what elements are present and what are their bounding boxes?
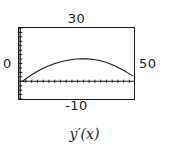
calculator-graph-figure: 30 0 50 -10 y′(x) bbox=[0, 0, 169, 156]
y-axis-min-label: -10 bbox=[0, 99, 153, 113]
y-axis-group bbox=[19, 28, 22, 99]
plot-canvas bbox=[19, 28, 134, 99]
derivative-curve bbox=[23, 59, 133, 82]
figure-caption: y′(x) bbox=[0, 126, 169, 142]
y-axis-max-label: 30 bbox=[0, 12, 153, 26]
x-axis-min-label: 0 bbox=[3, 57, 12, 71]
plot-area bbox=[18, 27, 135, 100]
x-axis-max-label: 50 bbox=[139, 57, 157, 71]
plot-graphics bbox=[19, 28, 134, 99]
x-axis-group bbox=[20, 80, 134, 83]
